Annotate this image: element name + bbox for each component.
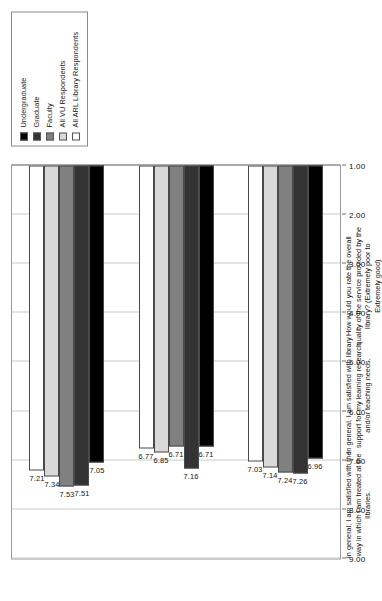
legend-label: Graduate [30, 96, 43, 127]
bar-row: 7.21 [29, 165, 44, 558]
bar-row: 6.71 [199, 165, 214, 558]
bar-value-label: 7.16 [183, 472, 198, 481]
bar-value-label: 7.53 [59, 490, 74, 499]
bar [308, 165, 323, 458]
bar [293, 165, 308, 473]
chart-legend: UndergraduateGraduateFacultyAll VU Respo… [11, 11, 88, 146]
legend-item: All VU Respondents [56, 18, 69, 140]
legend-item: All ARL Library Respondents [69, 18, 82, 140]
bar [248, 165, 263, 461]
bar-value-label: 6.96 [308, 462, 323, 471]
plot-area: 7.057.517.537.347.216.717.166.716.856.77… [11, 164, 341, 559]
legend-item: Faculty [43, 18, 56, 140]
bar [74, 165, 89, 485]
bar [199, 165, 214, 446]
bar-row: 7.03 [248, 165, 263, 558]
legend-swatch-icon [20, 132, 28, 140]
bar-value-label: 6.71 [168, 449, 183, 458]
category-label: In general, I am satisfied with the way … [344, 444, 373, 564]
bar-value-label: 7.21 [29, 474, 44, 483]
bar-value-label: 6.71 [198, 449, 213, 458]
category-axis: In general, I am satisfied with the way … [342, 164, 376, 591]
bar-row: 6.77 [139, 165, 154, 558]
bar [263, 165, 278, 467]
bar-value-label: 7.26 [293, 476, 308, 485]
legend-label: All ARL Library Respondents [69, 31, 82, 127]
legend-label: All VU Respondents [56, 60, 69, 127]
legend-swatch-icon [59, 132, 67, 140]
bar-value-label: 7.14 [263, 471, 278, 480]
bar-value-label: 7.51 [74, 489, 89, 498]
bar-value-label: 7.34 [44, 480, 59, 489]
bar-row: 6.96 [308, 165, 323, 558]
bar-row: 7.26 [293, 165, 308, 558]
bar [29, 165, 44, 470]
legend-item: Graduate [30, 18, 43, 140]
bar-row: 7.34 [44, 165, 59, 558]
bar-row: 7.05 [89, 165, 104, 558]
legend-item: Undergraduate [17, 18, 30, 140]
bar [59, 165, 74, 486]
bar-row: 6.85 [154, 165, 169, 558]
bar [89, 165, 104, 462]
bar-value-label: 7.03 [248, 465, 263, 474]
bar-row: 7.53 [59, 165, 74, 558]
bar-row: 7.16 [184, 165, 199, 558]
category-label: In general, I am satisfied with library … [344, 335, 373, 455]
legend-label: Faculty [43, 103, 56, 127]
bar [44, 165, 59, 476]
bar [154, 165, 169, 452]
bar [184, 165, 199, 468]
bar-row: 6.71 [169, 165, 184, 558]
bar-value-label: 6.77 [138, 452, 153, 461]
legend-swatch-icon [46, 132, 54, 140]
bar [139, 165, 154, 448]
bar-value-label: 7.24 [278, 475, 293, 484]
legend-swatch-icon [72, 132, 80, 140]
bar [169, 165, 184, 446]
bar-row: 7.24 [278, 165, 293, 558]
bar-value-label: 6.85 [153, 456, 168, 465]
bar-row: 7.14 [263, 165, 278, 558]
legend-swatch-icon [33, 132, 41, 140]
bar-row: 7.51 [74, 165, 89, 558]
legend-label: Undergraduate [17, 77, 30, 127]
plot-inner: 7.057.517.537.347.216.717.166.716.856.77… [12, 165, 340, 558]
bar [278, 165, 293, 472]
bar-value-label: 7.05 [89, 466, 104, 475]
category-label: How would you rate the overall quality o… [344, 226, 382, 346]
